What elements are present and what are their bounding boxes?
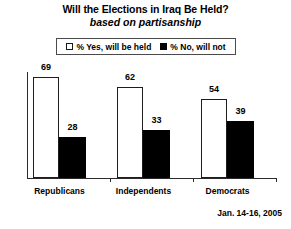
bar-value-yes-independents: 62: [117, 72, 143, 82]
x-axis-tick: [276, 178, 277, 182]
bar-yes-republicans: [33, 77, 59, 178]
bar-no-independents: [143, 130, 170, 178]
x-axis-line: [27, 178, 277, 179]
bar-value-no-independents: 33: [143, 115, 170, 125]
bar-value-yes-democrats: 54: [201, 84, 227, 94]
bar-value-no-republicans: 28: [59, 122, 86, 132]
bar-value-yes-republicans: 69: [33, 62, 59, 72]
bar-no-republicans: [59, 137, 86, 178]
chart-date-note: Jan. 14-16, 2005: [217, 208, 282, 219]
chart-plot-area: 69 28 Republicans 62 33 Independents 54 …: [0, 0, 291, 229]
x-axis-label-democrats: Democrats: [182, 186, 273, 197]
bar-no-democrats: [227, 121, 254, 178]
bar-yes-independents: [117, 87, 143, 178]
bar-yes-democrats: [201, 99, 227, 178]
x-axis-label-independents: Independents: [98, 186, 189, 197]
bar-value-no-democrats: 39: [227, 106, 254, 116]
x-axis-tick: [193, 178, 194, 182]
x-axis-label-republicans: Republicans: [14, 186, 105, 197]
y-axis-line: [27, 72, 28, 179]
x-axis-tick: [110, 178, 111, 182]
